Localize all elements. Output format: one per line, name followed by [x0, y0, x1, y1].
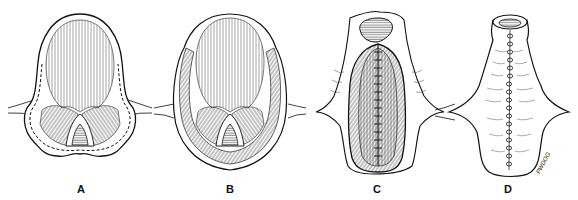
panel-a-drawing — [0, 0, 160, 200]
panel-d-label: D — [498, 183, 518, 195]
panel-c-drawing — [300, 0, 445, 200]
panel-b-drawing — [150, 0, 310, 200]
panel-d: D PWDOG — [435, 0, 578, 200]
panel-a-label: A — [71, 183, 91, 195]
panel-d-drawing — [435, 0, 578, 200]
panel-c-label: C — [367, 183, 387, 195]
panel-c: C — [300, 0, 445, 200]
panel-b-label: B — [220, 183, 240, 195]
surgical-illustration-figure: A B — [0, 0, 578, 200]
panel-a: A — [0, 0, 160, 200]
panel-b: B — [150, 0, 310, 200]
